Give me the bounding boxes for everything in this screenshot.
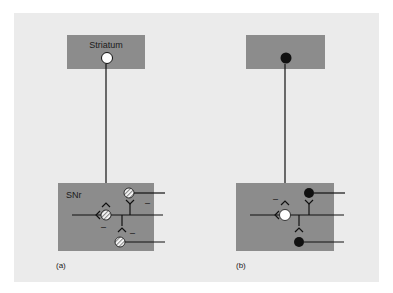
striatum-label: Striatum bbox=[89, 40, 123, 50]
panel-b-caption: (b) bbox=[236, 261, 246, 270]
snr-neuron-lower-hatched-icon bbox=[115, 237, 125, 247]
minus-sign: – bbox=[101, 222, 106, 232]
basal-ganglia-diagram: Striatum SNr – – – (a) – bbox=[0, 0, 393, 293]
striatal-neuron-open-icon bbox=[102, 53, 113, 64]
minus-sign: – bbox=[273, 194, 278, 204]
snr-label: SNr bbox=[66, 190, 82, 200]
panel-a-caption: (a) bbox=[56, 261, 66, 270]
snr-neuron-upper-hatched-icon bbox=[124, 188, 134, 198]
minus-sign: – bbox=[130, 228, 135, 238]
snr-neuron-central-hatched-icon bbox=[101, 210, 111, 220]
panel-b: – (b) bbox=[236, 35, 345, 270]
minus-sign: – bbox=[145, 198, 150, 208]
panel-a: Striatum SNr – – – (a) bbox=[56, 35, 165, 270]
striatal-neuron-filled-icon bbox=[281, 53, 292, 64]
striatum-box-b bbox=[246, 35, 325, 69]
snr-neuron-upper-filled-icon bbox=[304, 188, 314, 198]
snr-neuron-lower-filled-icon bbox=[294, 237, 304, 247]
snr-neuron-central-open-icon bbox=[280, 210, 291, 221]
